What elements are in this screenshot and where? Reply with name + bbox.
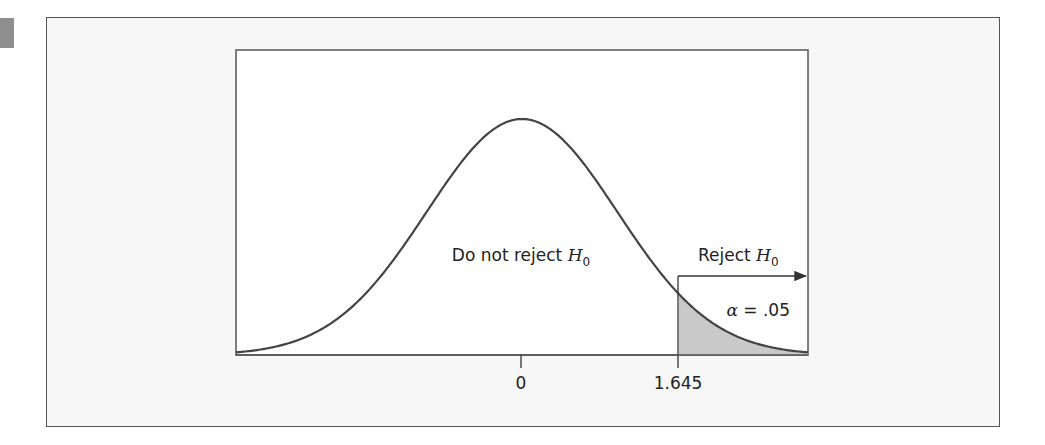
plot-area xyxy=(236,50,808,355)
x-tick-label-critical: 1.645 xyxy=(654,373,703,393)
alpha-label: α = .05 xyxy=(726,300,790,320)
x-tick-label-zero: 0 xyxy=(516,373,527,393)
normal-distribution-chart: Do not reject H0 Reject H0 α = .05 0 1.6… xyxy=(0,0,1045,445)
